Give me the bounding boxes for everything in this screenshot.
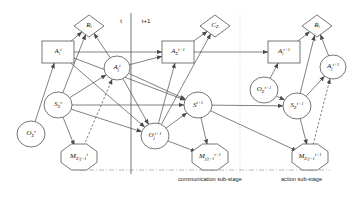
edge-O-sigma-t-plus-1-to-S-sigma-t-plus-1 xyxy=(276,96,284,100)
decision-node-R-i-left[interactable] xyxy=(74,15,104,37)
edge-S-sigma-t-to-M-sigma-t xyxy=(63,117,74,145)
action-sub-stage-caption: action sub-stage xyxy=(281,176,322,182)
node-group xyxy=(17,15,346,170)
state-node-A-j-t-plus-1[interactable] xyxy=(320,55,346,79)
state-node-A-i-t[interactable] xyxy=(42,41,74,63)
edge-A-i-t-plus-1-to-R-i-right xyxy=(298,32,310,41)
state-node-S-t-plus-1[interactable] xyxy=(184,92,212,118)
edge-M-sigma-t-plus-1-to-A-j-t-plus-1 xyxy=(313,79,330,145)
communication-sub-stage-caption: communication sub-stage xyxy=(178,176,242,182)
time-marker-t-plus-1: t+1 xyxy=(142,18,151,24)
edge-O-j-t-plus-1-to-S-t-plus-1 xyxy=(166,113,187,128)
edge-S-sigma-t-plus-1-to-A-j-t-plus-1 xyxy=(306,76,324,96)
state-node-A-sigma-t-plus-1[interactable] xyxy=(162,41,194,63)
observation-node-O-sigma-t-plus-1[interactable] xyxy=(250,77,278,103)
message-node-M-j-j1-t-plus-1[interactable] xyxy=(192,144,228,170)
edge-A-j-t-to-A-sigma-t-plus-1 xyxy=(130,56,163,65)
edge-S-sigma-t-plus-1-to-M-sigma-t-plus-1 xyxy=(300,119,307,145)
edge-O-j-t-plus-1-to-M-j-t-plus-1 xyxy=(168,141,196,152)
state-node-S-sigma-t[interactable] xyxy=(44,92,72,118)
message-node-M-sigma-j1-t-plus-1[interactable] xyxy=(292,144,328,170)
observation-node-O-j-t-plus-1[interactable] xyxy=(141,123,169,149)
edge-S-sigma-t-plus-1-to-R-i-right xyxy=(300,35,315,93)
state-node-A-j-t[interactable] xyxy=(104,56,130,80)
edge-S-t-plus-1-to-M-j-t-plus-1 xyxy=(201,118,207,145)
edge-O-sigma-t-plus-1-to-A-i-t-plus-1 xyxy=(270,63,278,78)
state-node-A-i-t-plus-1[interactable] xyxy=(268,41,300,63)
state-node-S-sigma-t-plus-1[interactable] xyxy=(283,93,311,119)
edge-A-i-t-to-R-i-left xyxy=(71,32,82,41)
observation-node-O-sigma-t[interactable] xyxy=(17,121,45,147)
decision-node-R-i-right[interactable] xyxy=(302,15,332,37)
edge-A-j-t-plus-1-to-R-i-right xyxy=(320,35,328,56)
edge-S-t-plus-1-to-M-sigma-t-plus-1 xyxy=(211,111,297,151)
diagram-svg xyxy=(0,0,363,198)
edge-S-t-plus-1-to-S-sigma-t-plus-1 xyxy=(212,105,283,106)
message-node-M-sigma-j1-t[interactable] xyxy=(61,144,97,170)
edge-A-j-t-to-O-j-t-plus-1 xyxy=(123,79,149,125)
edge-M-sigma-t-to-A-j-t xyxy=(84,79,112,146)
edge-A-j-t-to-R-i-left xyxy=(94,33,110,57)
time-marker-t: t xyxy=(120,18,122,24)
diagram-canvas: RiAitAjtSΣtOΣtMΣ/j−1tCΣAΣt+1St+1Ojt+1Mj/… xyxy=(0,0,363,198)
edge-A-sigma-t-plus-1-to-C-sigma xyxy=(194,31,208,41)
